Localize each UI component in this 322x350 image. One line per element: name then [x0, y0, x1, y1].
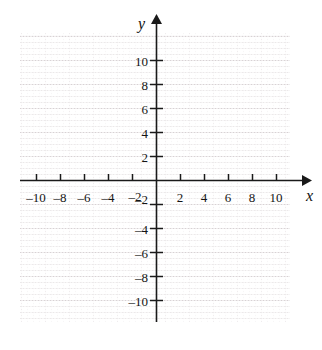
y-axis-arrowhead — [151, 14, 162, 24]
y-tick-label-6: 6 — [118, 103, 148, 116]
y-tick-label--4: –4 — [118, 223, 148, 236]
y-tick-label-2: 2 — [118, 151, 148, 164]
x-tick-label--4: –4 — [102, 191, 115, 204]
y-axis-ticks — [150, 61, 163, 301]
y-tick-label--10: –10 — [113, 295, 148, 308]
grid-minor-lines — [20, 33, 290, 322]
x-axis-label: x — [306, 188, 313, 204]
x-tick-label-10: 10 — [270, 191, 283, 204]
y-tick-label-8: 8 — [118, 79, 148, 92]
y-tick-label--2: –2 — [118, 193, 148, 206]
x-tick-label--6: –6 — [78, 191, 91, 204]
x-tick-label--10: –10 — [26, 191, 46, 204]
x-axis-arrowhead — [302, 175, 312, 186]
x-tick-label-2: 2 — [177, 191, 184, 204]
x-axis-ticks — [37, 174, 277, 181]
y-tick-label--8: –8 — [118, 271, 148, 284]
y-tick-label--6: –6 — [118, 247, 148, 260]
coordinate-plane: –10 –8 –6 –4 –2 2 4 6 8 10 10 8 6 4 2 –2… — [0, 0, 322, 350]
y-tick-label-4: 4 — [118, 127, 148, 140]
grid-dot-texture — [20, 33, 290, 322]
x-tick-label-8: 8 — [249, 191, 256, 204]
x-tick-label-6: 6 — [225, 191, 232, 204]
x-tick-label-4: 4 — [201, 191, 208, 204]
y-tick-label-10: 10 — [118, 55, 148, 68]
grid-major-lines — [20, 33, 290, 322]
axes-lines — [0, 0, 322, 350]
x-tick-label--8: –8 — [54, 191, 67, 204]
y-axis-label: y — [138, 16, 145, 32]
